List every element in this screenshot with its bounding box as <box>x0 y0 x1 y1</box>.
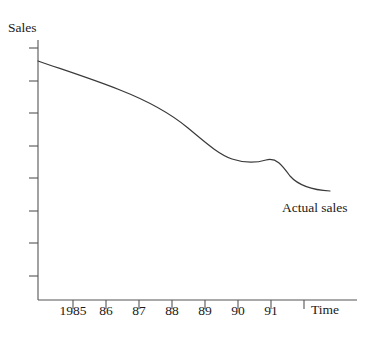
x-tick-label: 1985 <box>60 303 87 319</box>
sales-line-chart: Sales Time Actual sales 1985868788899091 <box>0 0 367 338</box>
x-tick-label: 88 <box>165 303 179 319</box>
y-axis-ticks <box>29 48 38 276</box>
chart-canvas <box>0 0 367 338</box>
x-tick-label: 89 <box>198 303 212 319</box>
y-axis-title: Sales <box>8 20 37 36</box>
x-tick-label: 91 <box>264 303 278 319</box>
x-axis-title: Time <box>311 302 339 318</box>
series-line-actual-sales <box>38 61 330 191</box>
series-annotation-actual-sales: Actual sales <box>282 200 348 216</box>
x-tick-label: 86 <box>99 303 113 319</box>
x-tick-label: 90 <box>231 303 245 319</box>
x-tick-label: 87 <box>132 303 146 319</box>
